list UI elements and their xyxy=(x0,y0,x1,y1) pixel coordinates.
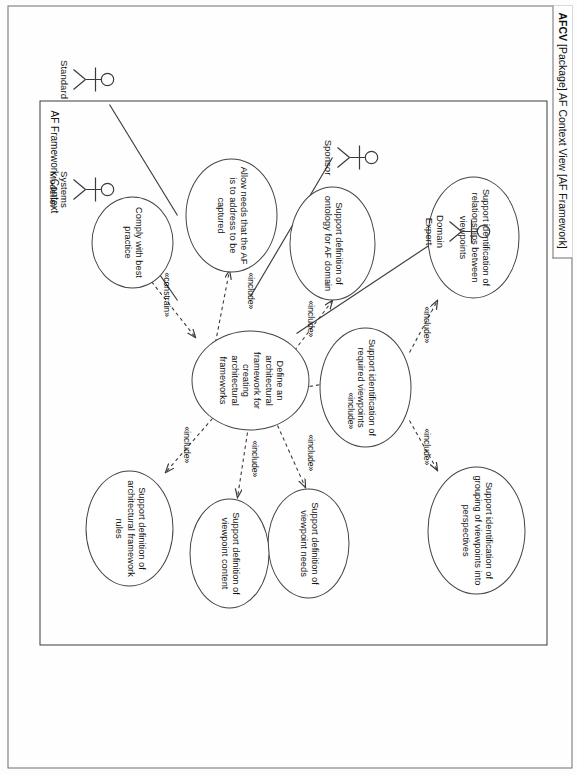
use-case-af-rules[interactable]: Support definition of architectural fram… xyxy=(85,470,173,586)
diagram-title-bar: AFCV [Package] AF Context View [AF Frame… xyxy=(552,5,572,258)
actor-domain-expert[interactable]: Domain Expert xyxy=(423,208,491,254)
actor-systems-modeller[interactable]: Systems Modeller xyxy=(47,166,115,212)
use-case-central-define-af[interactable]: Define an architectural framework for cr… xyxy=(191,330,309,430)
use-case-label: Allow needs that the AF is to address to… xyxy=(214,166,248,264)
use-case-allow-needs[interactable]: Allow needs that the AF is to address to… xyxy=(185,158,277,272)
use-case-label: Define an architectural framework for cr… xyxy=(216,338,284,422)
use-case-viewpoint-content[interactable]: Support definition of viewpoint content xyxy=(189,498,269,608)
stereotype-include-ontology: «include» xyxy=(305,300,315,337)
stereotype-include-allow-needs: «include» xyxy=(245,272,255,309)
diagram-title-id: AFCV xyxy=(556,12,568,41)
use-case-label: Support definition of ontology for AF do… xyxy=(321,194,344,292)
use-case-label: Support definition of viewpoint needs xyxy=(297,496,320,590)
stereotype-include-af-rules: «include» xyxy=(181,426,191,463)
stereotype-include-vp-needs: «include» xyxy=(305,434,315,471)
diagram-title-rest: [Package] AF Context View [AF Framework] xyxy=(556,41,568,249)
actor-label: Sponsor xyxy=(322,134,333,180)
use-case-label: Support definition of architectural fram… xyxy=(112,478,146,578)
use-case-ontology[interactable]: Support definition of ontology for AF do… xyxy=(289,186,375,300)
stereotype-constrain-best-practice: «constrain» xyxy=(161,272,171,316)
diagram-page: AFCV [Package] AF Context View [AF Frame… xyxy=(0,0,577,775)
stereotype-include-required: «include» xyxy=(345,392,355,429)
actor-label: Systems Modeller xyxy=(47,166,69,212)
use-case-label: Support definition of viewpoint content xyxy=(218,506,241,600)
stereotype-include-grouping: «include» xyxy=(421,428,431,465)
stereotype-include-relationships: «include» xyxy=(421,306,431,343)
actor-label: Domain Expert xyxy=(423,208,445,254)
actor-stick-figure-icon xyxy=(447,208,491,254)
use-case-label: Support identification of grouping of vi… xyxy=(459,474,493,586)
actor-stick-figure-icon xyxy=(71,166,115,212)
actor-standard[interactable]: Standard xyxy=(58,56,115,102)
use-case-label: Comply with best practice xyxy=(121,204,144,280)
actor-label: Standard xyxy=(58,56,69,102)
actor-sponsor[interactable]: Sponsor xyxy=(322,134,379,180)
use-case-required-viewpoints[interactable]: Support identification of required viewp… xyxy=(319,327,411,447)
stereotype-include-vp-content: «include» xyxy=(249,440,259,477)
rotated-canvas: AFCV [Package] AF Context View [AF Frame… xyxy=(0,0,577,775)
use-case-label: Support identification of required viewp… xyxy=(354,335,377,439)
use-case-grouping[interactable]: Support identification of grouping of vi… xyxy=(427,466,525,594)
use-case-viewpoint-needs[interactable]: Support definition of viewpoint needs xyxy=(267,488,349,598)
actor-stick-figure-icon xyxy=(335,134,379,180)
actor-stick-figure-icon xyxy=(71,56,115,102)
